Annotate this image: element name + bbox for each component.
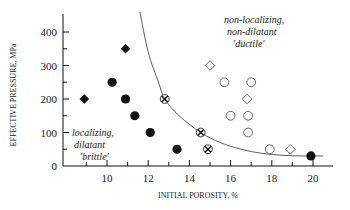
open-circle-marker	[220, 78, 229, 87]
crossed-circle-marker	[204, 145, 213, 154]
x-tick-label: 18	[266, 172, 278, 184]
filled-circle-marker	[146, 128, 155, 137]
annotation-brittle-line: localizing,	[72, 127, 114, 138]
annotation-ductile-line: non-localizing,	[224, 14, 284, 25]
open-circle-marker	[226, 111, 235, 120]
crossed-circle-marker	[196, 128, 205, 137]
crossed-circle-marker	[160, 95, 169, 104]
annotations: localizing,dilatant'brittle'non-localizi…	[72, 14, 284, 162]
filled-circle-marker	[306, 151, 315, 160]
annotation-ductile-line: non-dilatant	[227, 26, 277, 37]
x-tick-label: 16	[225, 172, 237, 184]
annotation-brittle-line: dilatant	[74, 139, 105, 150]
filled-diamond-marker	[121, 44, 131, 54]
open-diamond-marker	[242, 94, 252, 104]
x-axis-title: INITIAL POROSITY, %	[158, 191, 238, 200]
filled-circle-marker	[172, 145, 181, 154]
filled-circle-marker	[121, 94, 130, 103]
open-circle-marker	[244, 128, 253, 137]
filled-circle-marker	[130, 111, 139, 120]
open-circle-marker	[247, 78, 256, 87]
open-circle-marker	[244, 111, 253, 120]
y-tick-label: 400	[41, 26, 58, 38]
open-diamond-marker	[286, 144, 296, 154]
y-tick-label: 300	[41, 60, 58, 72]
x-tick-label: 14	[184, 172, 196, 184]
y-axis-title: EFFECTIVE PRESSURE, MPa	[9, 43, 18, 146]
x-tick-label: 20	[308, 172, 320, 184]
x-tick-label: 10	[102, 172, 114, 184]
porosity-pressure-chart: 0100200300400101214161820 localizing,dil…	[0, 0, 350, 210]
annotation-brittle-line: 'brittle'	[80, 151, 110, 162]
y-tick-label: 100	[41, 127, 58, 139]
filled-diamond-marker	[80, 94, 90, 104]
open-diamond-marker	[205, 61, 215, 71]
x-tick-label: 12	[143, 172, 154, 184]
filled-circle-marker	[108, 78, 117, 87]
data-points	[80, 44, 316, 161]
annotation-ductile-line: 'ductile'	[233, 38, 265, 49]
open-circle-marker	[265, 145, 274, 154]
y-tick-label: 0	[52, 160, 58, 172]
y-tick-label: 200	[41, 93, 58, 105]
